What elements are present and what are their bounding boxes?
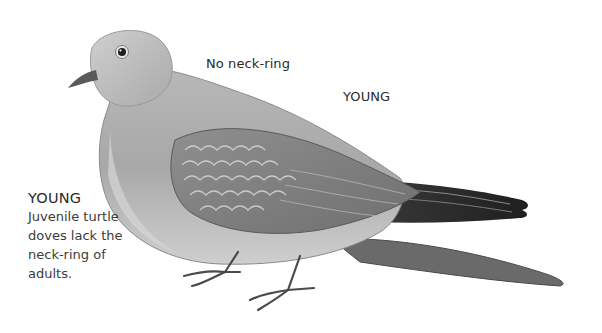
caption-line: adults. xyxy=(28,264,158,283)
no-neck-ring-label: No neck-ring xyxy=(206,56,290,71)
caption-line: Juvenile turtle xyxy=(28,207,158,226)
turtle-dove-illustration xyxy=(0,0,602,333)
caption-line: neck-ring of xyxy=(28,245,158,264)
head xyxy=(90,30,172,106)
young-body-label: YOUNG xyxy=(343,89,390,104)
beak xyxy=(68,70,98,88)
caption-title: YOUNG xyxy=(28,190,158,206)
illustration-stage: No neck-ring YOUNG YOUNG Juvenile turtle… xyxy=(0,0,602,333)
lower-tail xyxy=(330,238,563,286)
caption-body: Juvenile turtle doves lack the neck-ring… xyxy=(28,207,158,283)
caption-line: doves lack the xyxy=(28,226,158,245)
caption-block: YOUNG Juvenile turtle doves lack the nec… xyxy=(28,190,158,283)
